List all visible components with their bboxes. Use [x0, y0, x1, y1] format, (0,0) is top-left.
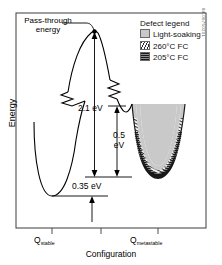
curve-peak-left [68, 33, 91, 92]
legend-label-light-soaking: Light-soaking [153, 30, 201, 39]
x-axis-ticks [52, 228, 158, 234]
q-metastable-subscript: metastable [137, 240, 163, 246]
legend-item-205c-fc: 205°C FC [140, 52, 201, 62]
legend-swatch-light-soaking [140, 29, 150, 38]
x-axis-label: Configuration [0, 250, 222, 260]
legend-item-260c-fc: 260°C FC [140, 41, 201, 51]
curve-stable-well [34, 122, 76, 196]
legend-title: Defect legend [140, 19, 201, 28]
pass-through-callout: Pass-through energy [19, 17, 77, 35]
break-mark-right [108, 80, 120, 99]
curve-descending-right [117, 99, 132, 112]
xtick-label-q-stable: Qstable [34, 236, 55, 246]
label-barrier-energy: 2.1 eV [78, 104, 103, 114]
callout-line-2: energy [19, 26, 77, 35]
legend-swatch-205c-fc [140, 52, 150, 61]
metastable-well-group [132, 104, 185, 179]
arrow-0-35-ev [52, 196, 108, 222]
q-stable-base: Q [34, 235, 41, 245]
label-offset-energy: 0.35 eV [72, 182, 101, 192]
legend-label-205c-fc: 205°C FC [153, 53, 188, 62]
legend-item-light-soaking: Light-soaking [140, 29, 201, 39]
figure-configuration-coordinate-diagram: Energy Pass-through energy 2.1 eV 0.5 eV… [0, 0, 222, 265]
figure-side-code: 84-06750201 [200, 8, 205, 72]
y-axis-label: Energy [7, 85, 17, 141]
legend-swatch-260c-fc [140, 41, 150, 50]
q-metastable-base: Q [130, 235, 137, 245]
xtick-label-q-metastable: Qmetastable [130, 236, 162, 246]
well-depth-unit: eV [110, 141, 128, 151]
label-well-depth: 0.5 eV [110, 131, 128, 150]
legend-label-260c-fc: 260°C FC [153, 42, 188, 51]
q-stable-subscript: stable [41, 240, 55, 246]
defect-legend: Defect legend Light-soaking 260°C FC 205… [140, 19, 201, 64]
